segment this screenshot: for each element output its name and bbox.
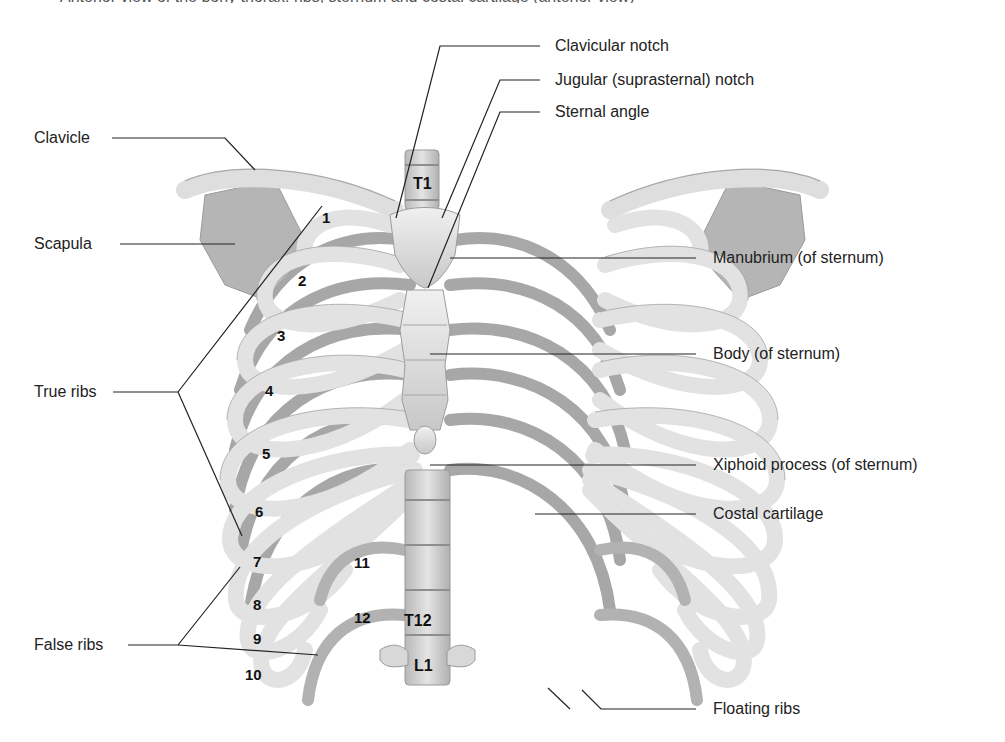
label-body-of-sternum: Body (of sternum) — [713, 345, 840, 363]
rib-number-2: 2 — [298, 273, 306, 289]
label-clavicle: Clavicle — [34, 129, 90, 147]
rib-number-11: 11 — [354, 555, 370, 571]
rib-number-4: 4 — [265, 383, 273, 399]
rib-number-12: 12 — [354, 610, 371, 626]
vertebra-t1: T1 — [413, 175, 432, 193]
vertebra-l1: L1 — [414, 657, 433, 675]
label-jugular-notch: Jugular (suprasternal) notch — [555, 71, 754, 89]
label-xiphoid-process: Xiphoid process (of sternum) — [713, 456, 918, 474]
label-true-ribs: True ribs — [34, 383, 97, 401]
rib-number-7: 7 — [253, 554, 261, 570]
vertebra-t12: T12 — [404, 612, 432, 630]
label-sternal-angle: Sternal angle — [555, 103, 649, 121]
rib-number-8: 8 — [253, 597, 261, 613]
label-manubrium: Manubrium (of sternum) — [713, 249, 884, 267]
rib-number-5: 5 — [262, 446, 270, 462]
rib-number-10: 10 — [245, 667, 262, 683]
label-costal-cartilage: Costal cartilage — [713, 505, 823, 523]
label-clavicular-notch: Clavicular notch — [555, 37, 669, 55]
rib-number-6: 6 — [255, 504, 263, 520]
rib-number-1: 1 — [322, 210, 330, 226]
rib-number-9: 9 — [253, 631, 261, 647]
label-scapula: Scapula — [34, 235, 92, 253]
label-false-ribs: False ribs — [34, 636, 103, 654]
label-floating-ribs: Floating ribs — [713, 700, 800, 718]
rib-cage-illustration — [0, 0, 1005, 742]
rib-number-3: 3 — [277, 328, 285, 344]
